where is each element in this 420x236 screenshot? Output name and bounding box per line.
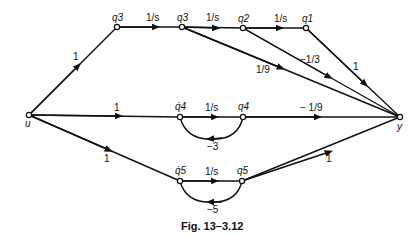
label-q5: q5 xyxy=(237,165,249,176)
gain-u-q4dot: 1 xyxy=(114,102,120,113)
node-q5dot xyxy=(177,178,182,183)
label-q1: q1 xyxy=(302,13,313,24)
label-q3dot: q3 xyxy=(112,12,124,23)
node-q3dot xyxy=(114,24,119,29)
gain-q1-y: 1 xyxy=(353,61,359,72)
label-q3: q3 xyxy=(177,12,189,23)
gain-u-q5dot: 1 xyxy=(104,153,110,164)
node-q3 xyxy=(179,24,184,29)
node-y xyxy=(397,114,402,119)
loop-q4 xyxy=(180,117,243,139)
gain-q5-y: 1 xyxy=(326,153,332,164)
node-q4dot xyxy=(177,114,182,119)
gain-q3dot-q3: 1/s xyxy=(146,12,159,23)
gain-q2-q1: 1/s xyxy=(274,13,287,24)
gain-q5dot-q5: 1/s xyxy=(205,166,218,177)
label-q4: q4 xyxy=(238,101,250,112)
node-q5 xyxy=(239,178,244,183)
gain-q4-loop: −3 xyxy=(207,141,219,152)
loop-q5 xyxy=(180,181,242,202)
signal-flow-graph: u q3 q3 q2 q1 q̇4 q4 q̇5 q5 y 1 1/s 1/s … xyxy=(0,0,420,236)
label-q4dot: q̇4 xyxy=(175,101,187,112)
gain-q2-y: −1/3 xyxy=(300,54,320,65)
label-q5dot: q̇5 xyxy=(175,165,187,176)
gain-q3-y: 1/9 xyxy=(256,64,270,75)
node-u xyxy=(26,112,31,117)
edge-q5-y xyxy=(242,117,400,181)
node-q1 xyxy=(303,25,308,30)
label-q2: q2 xyxy=(238,13,250,24)
figure-caption: Fig. 13–3.12 xyxy=(181,220,243,232)
label-u: u xyxy=(25,118,31,129)
gain-q5-loop: −5 xyxy=(207,204,219,215)
gain-q4dot-q4: 1/s xyxy=(205,102,218,113)
gain-q4-y: − 1/9 xyxy=(300,102,323,113)
label-y: y xyxy=(396,121,403,132)
gain-u-q3dot: 1 xyxy=(73,51,79,62)
node-q2 xyxy=(240,25,245,30)
gain-q3-q2: 1/s xyxy=(206,12,219,23)
node-q4 xyxy=(240,114,245,119)
